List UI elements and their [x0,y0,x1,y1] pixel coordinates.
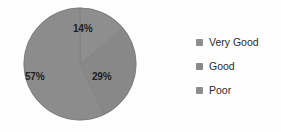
legend-swatch-icon-very-good [196,39,203,46]
slice-label-poor: 57% [25,72,44,82]
pie-plot-area: 14% 29% 57% [22,2,142,126]
chart-legend: Very Good Good Poor [196,30,280,102]
legend-item-very-good[interactable]: Very Good [196,30,280,54]
legend-swatch-icon-good [196,63,203,70]
legend-label-good: Good [209,61,235,72]
legend-label-very-good: Very Good [209,37,259,48]
pie-chart: 14% 29% 57% Very Good Good Poor [0,0,281,132]
legend-label-poor: Poor [209,85,231,96]
slice-label-very-good: 14% [73,24,92,34]
pie-graphic [22,2,142,126]
slice-label-good: 29% [92,72,111,82]
legend-item-good[interactable]: Good [196,54,280,78]
legend-item-poor[interactable]: Poor [196,78,280,102]
legend-swatch-icon-poor [196,87,203,94]
